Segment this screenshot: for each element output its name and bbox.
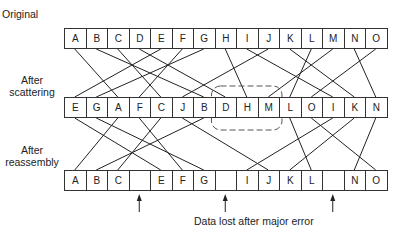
block-original-K: K [279,28,302,49]
block-original-J: J [258,28,281,49]
block-original-A: A [64,28,87,49]
block-reassembled-E: E [150,170,173,191]
block-reassembled-empty [322,170,345,191]
label-after-reassembly-line1: After [0,144,64,156]
block-original-E: E [150,28,173,49]
arrow-up-icon [137,194,142,201]
block-reassembled-G: G [193,170,216,191]
block-scattered-L: L [279,97,302,118]
block-reassembled-J: J [258,170,281,191]
block-reassembled-O: O [365,170,388,191]
block-scattered-D: D [215,97,238,118]
label-after-scattering-line2: scattering [0,86,64,98]
arrow-up-icon [330,194,335,201]
block-scattered-B: B [193,97,216,118]
block-reassembled-F: F [172,170,195,191]
block-original-M: M [322,28,345,49]
block-reassembled-N: N [344,170,367,191]
block-reassembled-C: C [107,170,130,191]
arrow-up-icon [223,194,228,201]
block-scattered-A: A [107,97,130,118]
block-scattered-H: H [236,97,259,118]
caption-data-lost: Data lost after major error [194,215,314,227]
block-scattered-E: E [64,97,87,118]
block-scattered-G: G [86,97,109,118]
block-original-H: H [215,28,238,49]
label-after-reassembly: After reassembly [0,144,64,168]
block-scattered-K: K [344,97,367,118]
block-original-B: B [86,28,109,49]
block-scattered-M: M [258,97,281,118]
block-reassembled-K: K [279,170,302,191]
block-reassembled-A: A [64,170,87,191]
block-original-N: N [344,28,367,49]
label-after-reassembly-line2: reassembly [0,156,64,168]
block-reassembled-empty [215,170,238,191]
block-original-O: O [365,28,388,49]
label-after-scattering: After scattering [0,74,64,98]
block-original-C: C [107,28,130,49]
block-original-L: L [301,28,324,49]
block-scattered-I: I [322,97,345,118]
block-scattered-N: N [365,97,388,118]
block-scattered-J: J [172,97,195,118]
block-original-G: G [193,28,216,49]
label-after-scattering-line1: After [0,74,64,86]
block-scattered-C: C [150,97,173,118]
block-reassembled-L: L [301,170,324,191]
block-original-I: I [236,28,259,49]
label-original: Original [2,8,62,20]
block-scattered-F: F [129,97,152,118]
block-reassembled-I: I [236,170,259,191]
block-original-D: D [129,28,152,49]
block-original-F: F [172,28,195,49]
block-reassembled-empty [129,170,152,191]
block-scattered-O: O [301,97,324,118]
block-reassembled-B: B [86,170,109,191]
